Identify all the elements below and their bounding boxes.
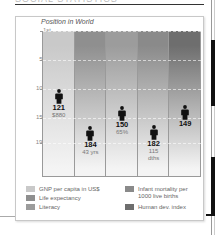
legend-label: GNP per capita in US$	[39, 186, 100, 192]
value-label: 65%	[112, 129, 132, 136]
legend-item: Human dev. index	[125, 204, 186, 211]
legend-label-line2: 1000 live births	[138, 193, 178, 199]
legend: GNP per capita in US$Life expectancyLite…	[26, 186, 196, 216]
person-icon	[150, 125, 158, 140]
legend-swatch	[125, 186, 134, 192]
bottom-rule	[0, 216, 16, 217]
rank-value: 182	[144, 140, 164, 148]
page-edge-foot	[206, 214, 215, 216]
rank-marker: 15065%	[112, 106, 132, 136]
column-human-dev-index	[169, 31, 201, 176]
rank-marker: 149	[175, 105, 195, 128]
person-icon	[86, 126, 94, 141]
rank-marker: 18443 yrs	[80, 126, 100, 156]
legend-swatch	[26, 186, 35, 192]
column-literacy	[106, 31, 138, 176]
legend-item: Life expectancy	[26, 195, 81, 202]
gridline	[43, 60, 201, 61]
rank-value: 149	[175, 120, 195, 128]
person-icon	[181, 105, 189, 120]
legend-swatch	[26, 204, 35, 210]
rank-marker: 121$880	[49, 89, 69, 119]
legend-item: Infant mortality per1000 live births	[125, 186, 188, 200]
page-edge-tab-1	[211, 40, 215, 106]
legend-item: Literacy	[26, 204, 60, 211]
legend-swatch	[26, 195, 35, 201]
rank-value: 150	[112, 121, 132, 129]
chart-panel: Position in World 1st50th100th150th193rd…	[15, 16, 204, 221]
gridline	[43, 31, 201, 32]
plot-area: 121$88018443 yrs15065%182115 dths149	[42, 31, 201, 177]
chart-title: Position in World	[41, 18, 94, 25]
legend-label: Human dev. index	[138, 204, 186, 210]
legend-swatch	[125, 204, 134, 210]
person-icon	[55, 89, 63, 104]
legend-label: Life expectancy	[39, 195, 81, 201]
legend-item: GNP per capita in US$	[26, 186, 100, 193]
rank-value: 184	[80, 141, 100, 149]
gridline	[43, 143, 201, 144]
rank-marker: 182115 dths	[144, 125, 164, 162]
heading-rule	[15, 4, 204, 5]
person-icon	[118, 106, 126, 121]
legend-label: Literacy	[39, 204, 60, 210]
page-edge-tab-2	[211, 157, 215, 216]
value-label: 115 dths	[144, 148, 164, 162]
value-label: $880	[49, 112, 69, 119]
value-label: 43 yrs	[80, 149, 100, 156]
rank-value: 121	[49, 104, 69, 112]
legend-label: Infant mortality per	[138, 186, 188, 192]
